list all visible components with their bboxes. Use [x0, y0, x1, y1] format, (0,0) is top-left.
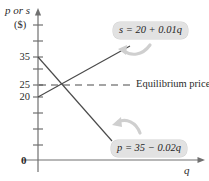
supply-demand-chart: p or s ($) q 35 25 20 0 s = 20 + 0.01q p… — [0, 0, 209, 181]
y-tick-label-20: 20 — [8, 92, 30, 103]
y-tick-label-35: 35 — [8, 52, 30, 63]
demand-callout-arrowhead — [112, 117, 122, 127]
x-axis-arrowhead — [198, 157, 206, 163]
equilibrium-price-label: Equilibrium price — [136, 79, 209, 90]
demand-line — [38, 57, 112, 141]
y-axis-unit-label: ($) — [14, 20, 26, 31]
supply-line — [38, 46, 130, 97]
supply-callout-arrow — [124, 45, 150, 54]
y-tick-label-25: 25 — [8, 80, 30, 91]
y-axis-label: p or s — [5, 5, 30, 16]
supply-equation-callout: s = 20 + 0.01q — [113, 22, 188, 39]
demand-equation-callout: p = 35 − 0.02q — [111, 140, 187, 157]
supply-callout-arrowhead — [118, 45, 127, 55]
y-axis-arrowhead — [35, 8, 41, 16]
origin-label: 0 — [21, 155, 27, 166]
x-axis-label: q — [184, 165, 190, 176]
